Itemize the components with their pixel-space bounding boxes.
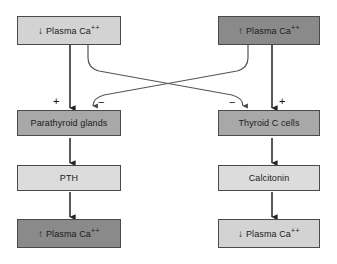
charge-superscript: ++ (91, 23, 100, 30)
sign-stimulate-parathyroid: + (53, 96, 59, 107)
node-parathyroid-glands: Parathyroid glands (17, 110, 121, 136)
charge-superscript: ++ (291, 226, 300, 233)
sign-stimulate-thyroid-c: + (279, 96, 285, 107)
curve-high-ca-inhibits-parathyroid (93, 45, 248, 106)
up-arrow-icon: ↑ (38, 229, 43, 239)
calcium-homeostasis-diagram: ↓Plasma Ca++ ↑Plasma Ca++ + − − + Parath… (0, 0, 337, 264)
down-arrow-icon: ↓ (38, 26, 43, 36)
node-high-plasma-ca-top: ↑Plasma Ca++ (218, 16, 320, 45)
node-label: Plasma Ca (46, 25, 91, 35)
node-low-plasma-ca-bottom: ↓Plasma Ca++ (218, 219, 320, 248)
curve-low-ca-inhibits-thyroid-c (88, 45, 243, 106)
charge-superscript: ++ (91, 226, 100, 233)
down-arrow-icon: ↓ (238, 229, 243, 239)
node-low-plasma-ca-top: ↓Plasma Ca++ (17, 16, 121, 45)
node-label: Plasma Ca (246, 25, 291, 35)
node-label: Parathyroid glands (31, 118, 108, 127)
up-arrow-icon: ↑ (238, 26, 243, 36)
node-high-plasma-ca-bottom: ↑Plasma Ca++ (17, 219, 121, 248)
node-label: Plasma Ca (246, 228, 291, 238)
charge-superscript: ++ (291, 23, 300, 30)
node-label: PTH (60, 173, 78, 182)
node-label: Plasma Ca (46, 228, 91, 238)
node-pth: PTH (17, 165, 121, 191)
node-label: Calcitonin (249, 173, 290, 182)
node-thyroid-c-cells: Thyroid C cells (218, 110, 320, 136)
node-calcitonin: Calcitonin (218, 165, 320, 191)
sign-inhibit-thyroid-c: − (229, 97, 235, 108)
node-label: Thyroid C cells (238, 118, 299, 127)
sign-inhibit-parathyroid: − (98, 97, 104, 108)
